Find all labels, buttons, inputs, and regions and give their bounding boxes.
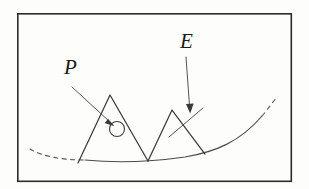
leader-arrowhead-e xyxy=(186,104,194,114)
leader-line-e xyxy=(186,57,190,107)
spike-left-triangle xyxy=(78,95,148,163)
figure-container: P E xyxy=(0,0,309,189)
base-curve-solid xyxy=(85,116,262,162)
base-curve-dashed-left xyxy=(30,149,85,160)
figure-frame-border xyxy=(18,14,292,182)
label-e: E xyxy=(179,29,193,53)
spike-right-triangle xyxy=(148,110,205,161)
label-p: P xyxy=(63,55,77,79)
leader-line-p xyxy=(72,87,110,122)
base-curve-dashed-right xyxy=(262,97,277,116)
figure-canvas: P E xyxy=(0,0,309,189)
